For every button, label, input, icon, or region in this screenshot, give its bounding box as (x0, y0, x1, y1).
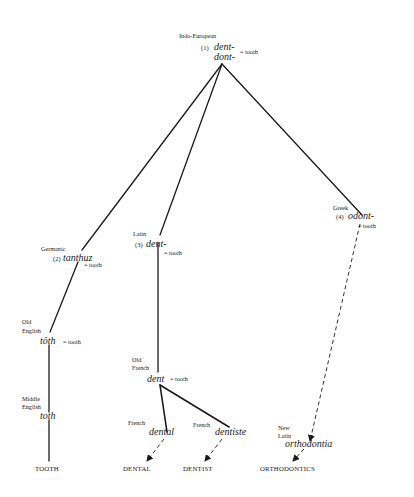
germanic-gloss: = tooth (84, 261, 102, 269)
edge-orthodontia-ORTHODONTICS (293, 449, 304, 461)
greek-language: Greek (333, 204, 348, 212)
french-dental-language: French (128, 419, 145, 427)
root-gloss: = tooth (240, 48, 258, 56)
latin-gloss: = tooth (164, 249, 182, 257)
oldenglish-gloss: = tooth (63, 338, 81, 346)
edge-root-latin (160, 64, 222, 235)
oldfrench-form: dent (147, 374, 164, 384)
latin-number: (3) (135, 241, 143, 249)
french-dentiste-language: French (193, 421, 210, 429)
oldfrench-gloss: = tooth (170, 375, 188, 383)
edge-root-germanic (82, 64, 222, 250)
newlatin-form: orthodontia (285, 439, 332, 449)
root-form-dont: dont- (214, 52, 235, 62)
oldfrench-language-line1: Old (132, 356, 141, 364)
edge-root-greek (222, 64, 362, 215)
middleenglish-language-line1: Middle (22, 395, 40, 403)
greek-gloss: = tooth (358, 222, 376, 230)
latin-form: dent- (146, 239, 167, 249)
newlatin-language-line1: New (278, 424, 290, 432)
output-tooth: TOOTH (35, 465, 59, 473)
middleenglish-form: toth (40, 411, 56, 421)
middleenglish-language-line2: English (22, 403, 41, 411)
oldenglish-language-line1: Old (22, 318, 31, 326)
output-orthodontics: ORTHODONTICS (260, 465, 315, 473)
germanic-language: Germanic (41, 245, 65, 253)
edge-oldfrench-dental (160, 385, 167, 432)
oldenglish-language-line2: English (22, 327, 41, 335)
edge-dentiste-DENTIST (205, 439, 222, 461)
root-number: (1) (201, 44, 209, 52)
etymology-diagram: Indo-European (1) dent- dont- = tooth Ge… (0, 0, 414, 497)
output-dentist: DENTIST (183, 465, 213, 473)
root-language: Indo-European (179, 32, 216, 40)
edge-greek-newlatin (310, 224, 360, 441)
edge-germanic-oldenglish (50, 262, 78, 332)
french-dental-form: dental (149, 427, 174, 437)
greek-number: (4) (336, 213, 344, 221)
oldenglish-form: tōth (40, 336, 56, 346)
edge-dental-DENTAL (147, 439, 164, 461)
greek-form: odont- (348, 211, 374, 221)
oldfrench-language-line2: French (132, 364, 149, 372)
latin-language: Latin (133, 230, 146, 238)
output-dental: DENTAL (123, 465, 151, 473)
germanic-number: (2) (53, 255, 61, 263)
french-dentiste-form: dentiste (215, 427, 246, 437)
